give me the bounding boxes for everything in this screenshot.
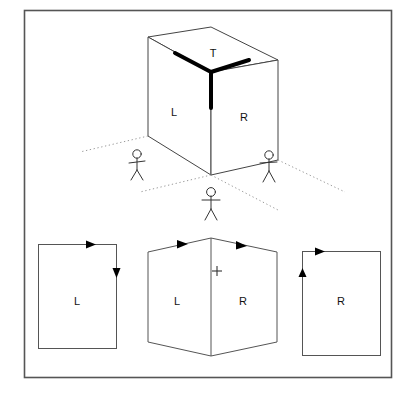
panel-right: R [299,248,381,356]
observer-left-leg-b [137,170,143,180]
cube-label-top: T [210,47,217,59]
panel-middle-label-right: R [239,295,247,307]
panel-middle: L R [148,238,277,356]
sight-line-right-upper [278,160,345,192]
cube-label-right: R [240,111,248,123]
sight-line-left-lower [140,175,211,192]
panel-middle-label-left: L [174,295,180,307]
observer-front [202,188,220,220]
diagram-canvas: T L R [0,0,416,398]
panel-right-label: R [337,295,345,307]
cube-label-left: L [171,106,177,118]
observer-front-head [207,188,216,197]
observer-right-leg-b [269,171,275,182]
observer-front-leg-a [205,209,211,220]
cube-group: T L R [148,27,278,175]
observer-left [129,150,145,180]
observer-front-leg-b [211,209,217,220]
panel-left-label: L [74,295,80,307]
panel-left: L [39,241,121,349]
observer-right-leg-a [263,171,269,182]
observer-left-leg-a [131,170,137,180]
diagram-stage: T L R [0,0,416,398]
sight-line-right-lower [211,175,278,210]
panel-middle-outline [148,238,277,356]
observer-left-head [133,150,141,158]
